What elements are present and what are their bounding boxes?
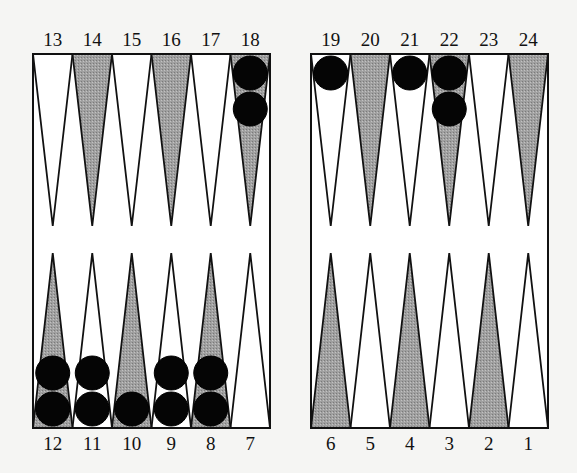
point-label-16: 16 [151,30,191,50]
point-label-18: 18 [230,30,270,50]
checker[interactable] [115,392,149,426]
checker[interactable] [36,356,70,390]
checker[interactable] [233,92,267,126]
backgammon-board [0,0,577,473]
checker[interactable] [432,92,466,126]
checker[interactable] [75,392,109,426]
checker[interactable] [194,356,228,390]
checker[interactable] [154,392,188,426]
point-label-13: 13 [33,30,73,50]
checker[interactable] [36,392,70,426]
point-label-7: 7 [230,434,270,454]
point-label-11: 11 [72,434,112,454]
checker[interactable] [393,56,427,90]
point-label-3: 3 [429,434,469,454]
point-label-5: 5 [350,434,390,454]
point-label-17: 17 [191,30,231,50]
point-label-6: 6 [311,434,351,454]
point-label-24: 24 [508,30,548,50]
checker[interactable] [194,392,228,426]
point-label-8: 8 [191,434,231,454]
point-label-1: 1 [508,434,548,454]
point-label-9: 9 [151,434,191,454]
right-half-board [311,54,548,428]
point-label-23: 23 [469,30,509,50]
point-label-15: 15 [112,30,152,50]
checker[interactable] [233,56,267,90]
point-label-19: 19 [311,30,351,50]
point-label-12: 12 [33,434,73,454]
point-label-20: 20 [350,30,390,50]
point-label-10: 10 [112,434,152,454]
point-label-22: 22 [429,30,469,50]
point-label-21: 21 [390,30,430,50]
checker[interactable] [314,56,348,90]
point-label-4: 4 [390,434,430,454]
checker[interactable] [75,356,109,390]
checker[interactable] [154,356,188,390]
point-label-2: 2 [469,434,509,454]
point-label-14: 14 [72,30,112,50]
checker[interactable] [432,56,466,90]
